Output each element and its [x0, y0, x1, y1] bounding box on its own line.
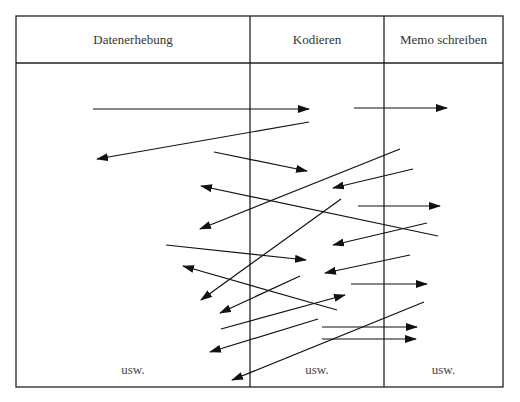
- column-header-memo-schreiben: Memo schreiben: [384, 16, 503, 63]
- column-footer-kodieren: usw.: [250, 362, 384, 378]
- arrow-8: [201, 199, 341, 300]
- arrow-2: [97, 122, 309, 159]
- column-header-datenerhebung: Datenerhebung: [16, 16, 250, 63]
- arrow-10: [166, 245, 306, 260]
- arrow-4: [200, 149, 400, 229]
- arrow-14: [220, 276, 300, 313]
- table-grid: [16, 16, 503, 387]
- arrow-16: [210, 319, 318, 352]
- column-header-kodieren: Kodieren: [250, 16, 384, 63]
- arrow-5: [333, 169, 413, 188]
- arrow-9: [333, 223, 427, 245]
- arrow-11: [325, 255, 410, 273]
- column-footer-datenerhebung: usw.: [16, 362, 250, 378]
- arrow-3: [214, 152, 307, 171]
- column-footer-memo-schreiben: usw.: [384, 362, 503, 378]
- arrow-15: [221, 295, 345, 329]
- arrows-group: [93, 108, 447, 380]
